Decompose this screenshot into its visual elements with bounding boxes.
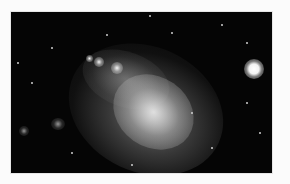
bright-knot (86, 55, 93, 62)
star (191, 112, 193, 114)
star (106, 34, 108, 36)
foreground-star (244, 59, 264, 79)
star-cluster (51, 118, 65, 130)
star (71, 152, 73, 154)
star (17, 62, 19, 64)
star (246, 102, 248, 104)
star (246, 42, 248, 44)
star-cluster (19, 126, 29, 136)
star (51, 47, 53, 49)
star (149, 15, 151, 17)
bright-knot (111, 62, 123, 74)
star (131, 164, 133, 166)
star (31, 82, 33, 84)
star (211, 147, 213, 149)
star (171, 32, 173, 34)
bright-knot (94, 57, 104, 67)
galaxy-photo (11, 12, 272, 173)
star (221, 24, 223, 26)
star (259, 132, 261, 134)
